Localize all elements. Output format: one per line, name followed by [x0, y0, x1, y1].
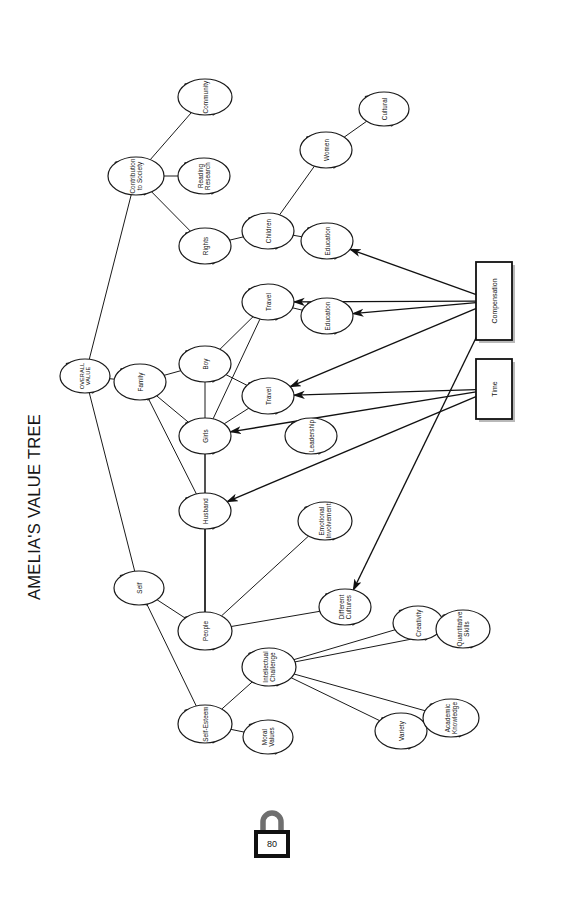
node-education1[interactable]: Education [301, 223, 353, 259]
edge-contribution-community [150, 113, 191, 160]
edge-family-boy [164, 371, 181, 376]
node-people[interactable]: People [178, 612, 232, 650]
node-root[interactable]: OVERALLVALUE [60, 359, 110, 393]
node-reading[interactable]: ReadingResearch [178, 158, 230, 194]
node-label-women: Women [323, 139, 330, 161]
padlock-value: 80 [267, 839, 277, 849]
node-layer: Contributionto SocietyCommunityReadingRe… [60, 79, 490, 754]
edge-root-family [110, 379, 115, 380]
padlock-shackle [263, 813, 281, 832]
edge-selfesteem-intellectual [222, 682, 253, 709]
node-travel2[interactable]: Travel [242, 378, 294, 414]
arrow-compensation-to-education2 [353, 303, 476, 314]
node-community[interactable]: Community [178, 79, 232, 115]
node-label-moralvalues: MoralValues [261, 727, 275, 746]
node-label-creativity: Creativity [415, 609, 423, 637]
node-contribution[interactable]: Contributionto Society [108, 157, 164, 195]
edge-people-diffcultures [231, 611, 320, 626]
edge-contribution-rights [152, 192, 191, 231]
diagram-canvas: AMELIA'S VALUE TREE CompensationTime Con… [0, 0, 563, 921]
node-creativity[interactable]: Creativity [393, 606, 443, 640]
node-label-education1: Education [324, 226, 331, 255]
node-label-cultural: Cultural [381, 98, 388, 121]
page-title: AMELIA'S VALUE TREE [25, 414, 43, 600]
arrow-compensation-to-diffcultures [353, 328, 481, 590]
node-rights[interactable]: Rights [179, 228, 231, 264]
edge-travel1-education2 [293, 308, 303, 310]
edge-family-girls [157, 396, 189, 422]
box-time[interactable]: Time [476, 359, 515, 422]
edge-root-self [89, 393, 134, 571]
node-self[interactable]: Self [114, 571, 164, 605]
edge-children-women [280, 166, 315, 215]
node-husband[interactable]: Husband [179, 493, 231, 529]
node-label-travel1: Travel [265, 293, 272, 311]
value-tree-svg: AMELIA'S VALUE TREE CompensationTime Con… [0, 0, 563, 921]
node-label-leadership: Leadership [308, 420, 316, 453]
edge-selfesteem-moralvalues [231, 729, 244, 732]
node-label-selfesteem: Self-Esteem [202, 706, 209, 741]
node-leadership[interactable]: Leadership [285, 418, 337, 454]
node-label-children: Children [265, 218, 272, 243]
node-label-reading: ReadingResearch [197, 162, 211, 190]
node-label-academic: AcademicKnowledge [444, 702, 459, 734]
node-diffcultures[interactable]: DifferentCultures [319, 589, 371, 625]
node-label-intellectual: IntellectualChallenge [262, 651, 277, 682]
box-label-time: Time [491, 381, 498, 396]
node-moralvalues[interactable]: MoralValues [243, 720, 293, 754]
node-education2[interactable]: Education [301, 298, 353, 334]
edge-people-emotional [221, 536, 308, 616]
edge-rights-children [230, 237, 244, 240]
node-label-self: Self [136, 582, 143, 593]
node-label-education2: Education [324, 301, 331, 330]
node-label-emotional: EmotionalInvolvement [318, 503, 332, 538]
box-compensation[interactable]: Compensation [476, 262, 515, 343]
edge-girls-travel2 [224, 408, 249, 424]
node-emotional[interactable]: EmotionalInvolvement [298, 502, 352, 540]
node-label-travel2: Travel [265, 387, 272, 405]
edge-intellectual-creativity [294, 630, 395, 660]
edge-self-people [157, 600, 185, 618]
node-variety[interactable]: Variety [375, 713, 427, 749]
box-layer: CompensationTime [476, 262, 515, 422]
node-label-people: People [202, 621, 210, 642]
node-label-husband: Husband [202, 498, 209, 524]
node-intellectual[interactable]: IntellectualChallenge [242, 648, 296, 686]
edge-intellectual-academic [294, 674, 425, 711]
node-academic[interactable]: AcademicKnowledge [423, 699, 479, 737]
node-girls[interactable]: Girls [179, 418, 231, 454]
node-selfesteem[interactable]: Self-Esteem [178, 705, 232, 743]
arrow-compensation-to-education1 [350, 249, 476, 294]
padlock-icon: 80 [256, 813, 288, 856]
node-label-contribution: Contributionto Society [129, 158, 144, 194]
edge-layer [89, 113, 437, 733]
node-label-community: Community [202, 80, 210, 113]
node-travel1[interactable]: Travel [242, 284, 294, 320]
node-label-diffcultures: DifferentCultures [338, 595, 352, 620]
page-title-text: AMELIA'S VALUE TREE [25, 414, 43, 600]
edge-children-education1 [293, 235, 301, 236]
node-label-rights: Rights [202, 237, 210, 255]
node-label-girls: Girls [202, 429, 209, 442]
edge-root-contribution [89, 195, 131, 360]
node-women[interactable]: Women [300, 132, 352, 168]
node-label-variety: Variety [398, 720, 406, 741]
node-boy[interactable]: Boy [179, 346, 231, 382]
node-cultural[interactable]: Cultural [359, 92, 409, 126]
box-label-compensation: Compensation [491, 278, 499, 323]
edge-women-cultural [344, 121, 366, 137]
node-children[interactable]: Children [242, 213, 294, 249]
node-label-boy: Boy [202, 358, 210, 370]
node-quantitative[interactable]: QuantitativeSkills [436, 610, 490, 648]
edge-intellectual-variety [291, 678, 379, 721]
node-label-family: Family [137, 372, 145, 392]
node-family[interactable]: Family [114, 364, 166, 400]
